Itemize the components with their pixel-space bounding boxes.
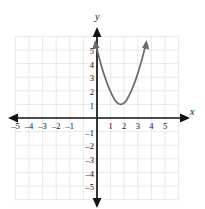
x-tick-label: 3: [133, 121, 143, 131]
x-tick-label: 2: [119, 121, 129, 131]
y-tick-label: –5: [80, 182, 94, 192]
y-tick-label: 2: [85, 87, 94, 97]
graph-figure: Graph: [0, 0, 205, 209]
y-tick-label: –4: [80, 169, 94, 179]
x-tick-label: 1: [106, 121, 116, 131]
y-tick-label: –2: [80, 141, 94, 151]
x-tick-label: 4: [146, 121, 156, 131]
x-tick-label: –5: [9, 121, 21, 131]
y-tick-label: 3: [85, 73, 94, 83]
x-tick-label: –4: [23, 121, 35, 131]
y-tick-label: 4: [85, 60, 94, 70]
x-tick-label: –2: [50, 121, 62, 131]
y-tick-label: 1: [85, 101, 94, 111]
x-tick-label: –1: [64, 121, 76, 131]
x-tick-label: 5: [160, 121, 170, 131]
y-axis-label: y: [95, 11, 99, 22]
x-tick-label: –3: [37, 121, 49, 131]
coordinate-plane-svg: [0, 0, 205, 209]
y-tick-label: –3: [80, 155, 94, 165]
y-tick-label: 5: [85, 46, 94, 56]
x-axis-label: x: [190, 106, 194, 117]
y-tick-label: –1: [80, 128, 94, 138]
